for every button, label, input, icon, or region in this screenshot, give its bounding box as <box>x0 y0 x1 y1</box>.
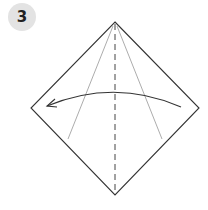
crease-right <box>117 26 162 139</box>
fold-arrow-icon <box>47 92 181 107</box>
origami-diagram <box>0 0 208 210</box>
crease-left <box>68 26 113 139</box>
